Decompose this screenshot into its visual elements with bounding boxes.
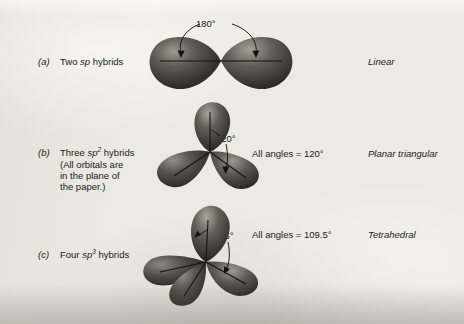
geometry-name-a: Linear (368, 56, 394, 68)
orbital-lobe-lower-left (157, 150, 210, 187)
geometry-name-b: Planar triangular (368, 148, 438, 160)
row-label-b-suffix: hybrids (101, 147, 134, 158)
row-label-c: Four sp3 hybrids (60, 249, 129, 261)
row-marker-a: (a) (38, 56, 50, 68)
orbital-lobe-up (194, 102, 230, 152)
orbital-lobe-left (150, 37, 221, 89)
row-note-b-line1: (All orbitals are (60, 159, 123, 171)
row-label-c-prefix: Four (60, 249, 82, 260)
row-label-b-hybrid: sp (87, 147, 97, 158)
row-label-a-prefix: Two (60, 56, 80, 67)
orbital-diagram-sp3 (140, 200, 280, 310)
row-marker-c: (c) (38, 249, 49, 261)
row-note-b-line2: in the plane of (60, 170, 120, 182)
row-label-b-prefix: Three (60, 147, 87, 158)
row-label-b: Three sp2 hybrids (60, 147, 134, 159)
row-label-a: Two sp hybrids (60, 56, 123, 68)
row-label-a-hybrid: sp (80, 56, 90, 67)
row-label-c-suffix: hybrids (96, 249, 129, 260)
row-label-c-hybrid: sp (82, 249, 92, 260)
orbital-diagram-sp2 (150, 100, 270, 200)
orbital-lobe-right (221, 37, 292, 89)
page-top-highlight (0, 0, 464, 16)
figure-page: (a) Two sp hybrids Linear 180° (0, 0, 464, 324)
row-marker-b: (b) (38, 147, 50, 159)
row-note-b-line3: the paper.) (60, 181, 105, 193)
row-label-a-suffix: hybrids (90, 56, 123, 67)
orbital-diagram-sp (146, 20, 296, 100)
geometry-name-c: Tetrahedral (368, 229, 416, 241)
